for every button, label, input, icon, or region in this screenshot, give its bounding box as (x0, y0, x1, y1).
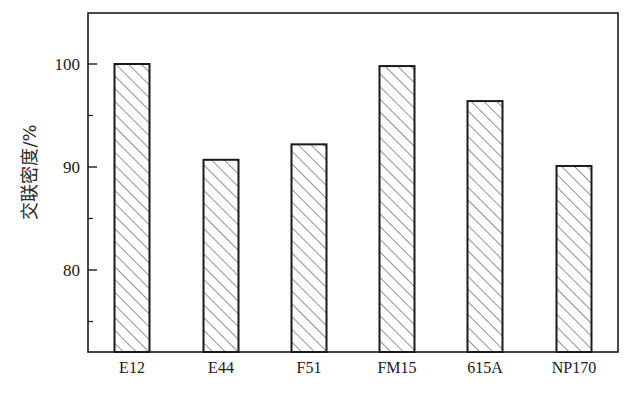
bar-fm15 (380, 66, 415, 352)
bar-chart: 8090100 E12E44F51FM15615ANP170 (0, 0, 634, 399)
y-axis-ticks: 8090100 (55, 55, 98, 322)
x-category-label: NP170 (552, 359, 596, 376)
x-category-label: F51 (297, 359, 322, 376)
bar-615a (468, 101, 503, 352)
x-category-label: 615A (467, 359, 503, 376)
y-axis-label: 交联密度/% (15, 112, 41, 232)
bar-f51 (292, 144, 327, 352)
x-category-label: FM15 (377, 359, 416, 376)
x-category-label: E12 (119, 359, 145, 376)
bar-np170 (557, 166, 592, 352)
plot-frame (88, 13, 618, 352)
y-tick-label: 100 (55, 55, 81, 74)
y-tick-label: 90 (63, 158, 80, 177)
x-axis-labels: E12E44F51FM15615ANP170 (119, 359, 596, 376)
x-category-label: E44 (208, 359, 234, 376)
bars (115, 64, 592, 352)
bar-e44 (204, 160, 239, 352)
y-tick-label: 80 (63, 261, 80, 280)
bar-e12 (115, 64, 150, 352)
